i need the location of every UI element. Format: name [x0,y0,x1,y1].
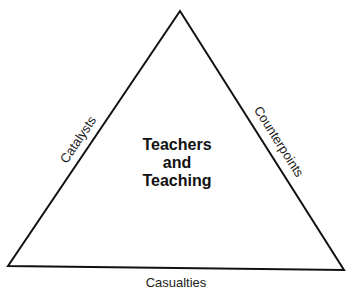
center-title-line-1: Teachers [117,136,237,154]
center-title: Teachers and Teaching [117,136,237,190]
center-title-line-3: Teaching [117,172,237,190]
bottom-side-label: Casualties [126,275,226,290]
center-title-line-2: and [117,154,237,172]
